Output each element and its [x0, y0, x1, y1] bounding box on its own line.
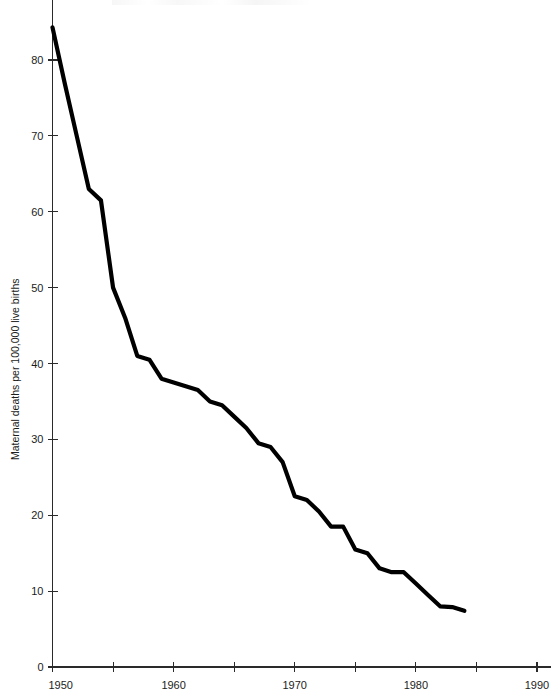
- y-axis-tick-labels: 01020304050607080: [31, 54, 43, 673]
- y-tick-label: 70: [31, 130, 43, 142]
- y-tick-label: 60: [31, 206, 43, 218]
- y-tick-label: 30: [31, 433, 43, 445]
- y-tick-label: 10: [31, 585, 43, 597]
- y-tick-label: 50: [31, 282, 43, 294]
- x-tick-label: 1960: [161, 679, 185, 691]
- y-tick-label: 80: [31, 54, 43, 66]
- x-tick-label: 1970: [283, 679, 307, 691]
- chart-canvas: 01020304050607080 19501960197019801990 M…: [0, 0, 560, 700]
- y-axis-title: Maternal deaths per 100,000 live births: [9, 278, 21, 460]
- maternal-mortality-chart: 01020304050607080 19501960197019801990 M…: [0, 0, 560, 700]
- x-tick-label: 1980: [404, 679, 428, 691]
- data-series-line: [53, 27, 465, 610]
- y-tick-label: 0: [37, 661, 43, 673]
- y-tick-label: 20: [31, 509, 43, 521]
- x-axis-tick-labels: 19501960197019801990: [49, 679, 550, 691]
- x-tick-label: 1950: [49, 679, 73, 691]
- x-tick-label: 1990: [525, 679, 549, 691]
- y-tick-label: 40: [31, 358, 43, 370]
